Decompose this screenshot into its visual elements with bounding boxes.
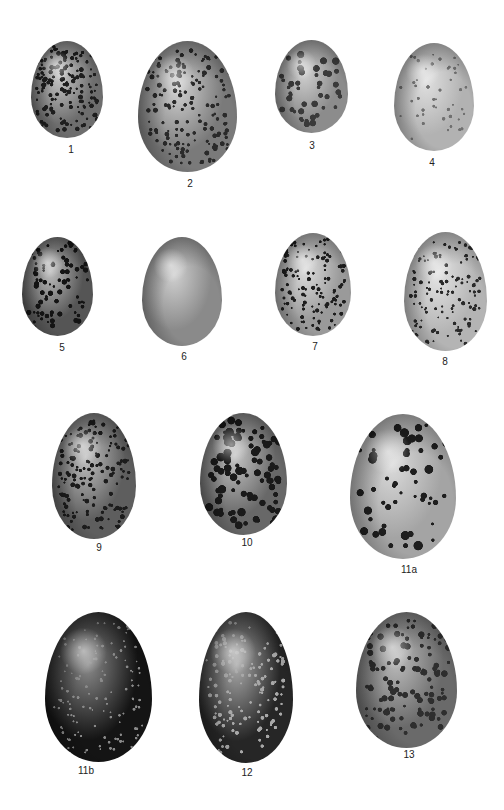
egg-11b <box>45 612 152 762</box>
egg-3 <box>275 40 348 133</box>
egg-5 <box>22 237 93 336</box>
egg-label-2: 2 <box>175 178 205 189</box>
egg-label-1: 1 <box>56 144 86 155</box>
egg-label-6: 6 <box>169 351 199 362</box>
egg-label-9: 9 <box>84 542 114 553</box>
egg-label-11b: 11b <box>71 765 101 776</box>
egg-label-8: 8 <box>430 356 460 367</box>
egg-6 <box>142 237 222 346</box>
egg-13 <box>356 612 457 748</box>
egg-8 <box>404 232 487 351</box>
egg-label-11a: 11a <box>394 564 424 575</box>
egg-label-7: 7 <box>300 341 330 352</box>
egg-10 <box>200 413 287 535</box>
egg-9 <box>52 413 136 539</box>
egg-2 <box>138 41 237 172</box>
egg-label-4: 4 <box>417 157 447 168</box>
egg-12 <box>199 612 293 763</box>
egg-7 <box>275 233 351 336</box>
egg-11a <box>350 414 456 559</box>
egg-1 <box>31 41 103 138</box>
egg-label-13: 13 <box>394 749 424 760</box>
egg-label-5: 5 <box>47 342 77 353</box>
egg-label-12: 12 <box>232 767 262 778</box>
egg-4 <box>394 43 474 151</box>
egg-label-3: 3 <box>297 140 327 151</box>
egg-label-10: 10 <box>232 537 262 548</box>
